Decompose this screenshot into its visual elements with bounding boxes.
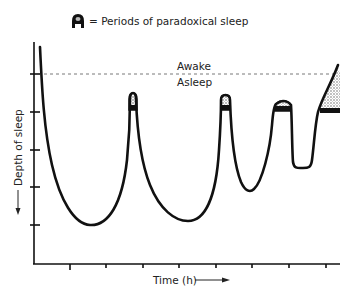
y-axis-title: Depth of sleep (12, 109, 24, 215)
legend-label: = Periods of paradoxical sleep (89, 15, 249, 27)
cap-highlight (76, 17, 81, 21)
cap-base (221, 105, 230, 110)
awake-label: Awake (177, 60, 211, 72)
x-axis-title: Time (h) (152, 274, 230, 286)
legend: = Periods of paradoxical sleep (72, 14, 249, 28)
down-arrow-icon (16, 208, 21, 215)
waking-shaded-region (320, 66, 340, 112)
right-arrow-icon (222, 278, 230, 283)
paradoxical-sleep-periods (129, 66, 340, 113)
cap-base (275, 106, 291, 111)
asleep-label: Asleep (177, 76, 212, 88)
x-axis-label: Time (h) (152, 274, 197, 286)
sleep-cycle-chart: = Periods of paradoxical sleep Awake Asl… (0, 0, 355, 296)
y-axis-label: Depth of sleep (12, 109, 24, 186)
cap-base (320, 108, 340, 113)
